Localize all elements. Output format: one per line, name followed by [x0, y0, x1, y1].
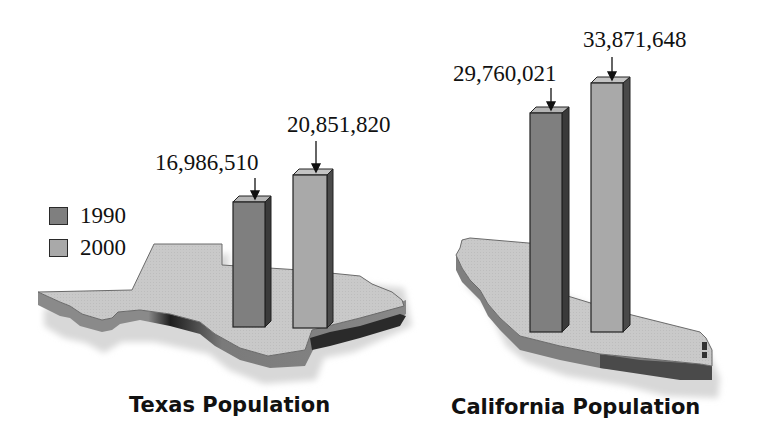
california-bar-2000: [591, 77, 630, 332]
california-2000-value-label: 33,871,648: [583, 27, 687, 53]
texas-bar-2000: [293, 169, 333, 328]
california-map: [456, 238, 720, 398]
legend-item-2000: 2000: [49, 235, 126, 261]
texas-1990-value-label: 16,986,510: [155, 150, 259, 176]
california-1990-value-label: 29,760,021: [453, 61, 557, 87]
texas-caption: Texas Population: [129, 393, 330, 417]
texas-map: [38, 244, 412, 384]
legend-swatch-1990: [49, 207, 68, 225]
chart-stage: 16,986,510 20,851,820 29,760,021 33,871,…: [0, 0, 760, 422]
legend-swatch-2000: [49, 239, 68, 257]
legend-item-1990: 1990: [49, 203, 126, 229]
legend-label-2000: 2000: [80, 235, 126, 261]
california-caption: California Population: [451, 395, 700, 419]
california-bar-1990: [530, 107, 569, 332]
texas-2000-value-label: 20,851,820: [287, 112, 391, 138]
legend-label-1990: 1990: [80, 203, 126, 229]
texas-bar-1990: [233, 196, 271, 327]
